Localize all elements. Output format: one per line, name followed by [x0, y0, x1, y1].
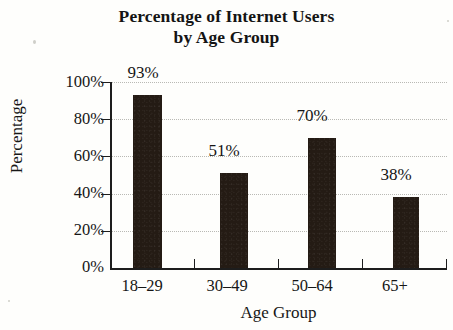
chart-title-line-1: Percentage of Internet Users: [119, 6, 335, 26]
y-tick-mark-20: [101, 231, 111, 232]
y-axis-title: Percentage: [7, 76, 27, 196]
y-tick-mark-40: [101, 194, 111, 195]
y-tick-mark-60: [101, 156, 111, 157]
x-tick-mark-1: [194, 259, 195, 269]
y-tick-label-20: 20%: [38, 220, 104, 240]
bar-value-label-30-49: 51%: [189, 141, 259, 161]
bar-30-49: [220, 173, 248, 268]
x-category-label-65-plus: 65+: [362, 276, 428, 296]
x-axis-title: Age Group: [110, 303, 447, 323]
y-tick-label-60: 60%: [38, 146, 104, 166]
y-tick-mark-80: [101, 119, 111, 120]
x-tick-mark-4: [446, 259, 447, 269]
x-category-label-50-64: 50–64: [275, 276, 349, 296]
y-tick-label-40: 40%: [38, 183, 104, 203]
y-tick-label-0: 0%: [38, 257, 104, 277]
scan-speckle: [8, 300, 10, 302]
chart-title-line-2: by Age Group: [0, 27, 453, 48]
bar-value-label-65-plus: 38%: [361, 165, 431, 185]
chart-title: Percentage of Internet Users by Age Grou…: [0, 6, 453, 48]
bar-chart-figure: Percentage of Internet Users by Age Grou…: [0, 0, 453, 330]
bar-50-64: [308, 138, 336, 268]
y-tick-label-80: 80%: [38, 109, 104, 129]
bar-value-label-18-29: 93%: [108, 63, 178, 83]
y-tick-label-100: 100%: [38, 72, 104, 92]
bar-65-plus: [393, 197, 419, 268]
bar-18-29: [133, 95, 162, 268]
x-category-label-30-49: 30–49: [190, 276, 264, 296]
x-tick-mark-3: [362, 259, 363, 269]
bar-value-label-50-64: 70%: [277, 106, 347, 126]
x-category-label-18-29: 18–29: [105, 276, 179, 296]
y-axis-line: [110, 82, 112, 268]
x-tick-mark-2: [278, 259, 279, 269]
